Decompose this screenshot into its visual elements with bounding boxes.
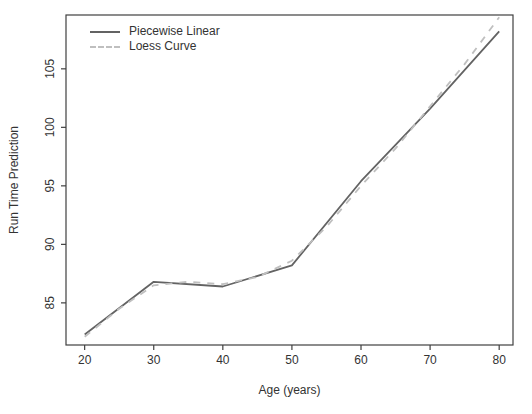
dashed-line-sample-icon [90,46,120,48]
legend-label-loess-curve: Loess Curve [129,39,196,54]
chart-figure: 20304050607080859095100105 Age (years) R… [0,0,532,414]
axis-ticks [61,69,499,350]
legend-item-piecewise-linear: Piecewise Linear [90,24,220,39]
data-series [85,17,500,337]
x-tick-label: 60 [354,353,368,367]
x-tick-label: 30 [147,353,161,367]
legend-item-loess-curve: Loess Curve [90,39,220,54]
y-tick-label: 100 [43,117,57,137]
y-tick-label: 95 [43,179,57,193]
x-tick-label: 20 [78,353,92,367]
y-axis-title: Run Time Prediction [7,126,21,234]
x-tick-label: 40 [216,353,230,367]
x-tick-label: 70 [423,353,437,367]
series-line-loess-curve [85,17,500,337]
y-tick-label: 90 [43,237,57,251]
x-tick-label: 50 [285,353,299,367]
series-line-piecewise-linear [85,31,500,334]
solid-line-sample-icon [90,31,120,33]
plot-border [66,15,513,345]
legend-label-piecewise-linear: Piecewise Linear [129,24,220,39]
plot-canvas: 20304050607080859095100105 [0,0,532,414]
x-tick-label: 80 [493,353,507,367]
y-tick-label: 85 [43,296,57,310]
axis-tick-labels: 20304050607080859095100105 [43,58,506,367]
x-axis-title: Age (years) [66,383,513,397]
y-tick-label: 105 [43,58,57,78]
legend: Piecewise Linear Loess Curve [90,24,220,54]
